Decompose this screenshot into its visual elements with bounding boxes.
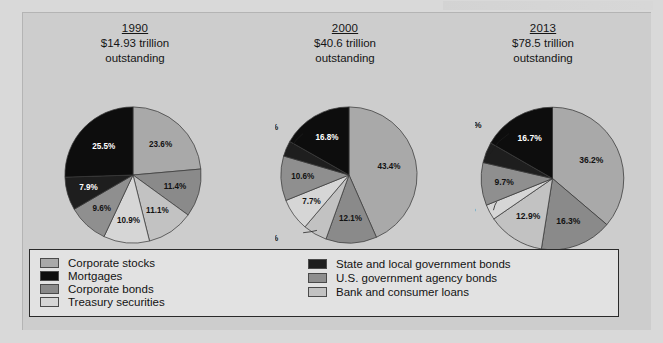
legend-label: Corporate stocks	[68, 257, 155, 269]
pie-slice-value-label-callout: 3.5%	[475, 204, 476, 214]
legend-swatch-bank-and-consumer-loans	[308, 287, 327, 297]
pie-slice-value-label: 9.7%	[494, 177, 514, 187]
chart-year-label: 2013	[443, 21, 643, 36]
pie-chart-figure-panel: 1990 $14.93 trillion outstanding 2000 $4…	[22, 12, 651, 330]
pie-chart-2013-svg: 36.2%16.3%12.9%3.5%9.7%4.7%16.7%	[475, 101, 630, 256]
pie-slice-value-label: 10.9%	[117, 216, 141, 225]
chart-amount-label: $78.5 trillion	[443, 36, 643, 51]
chart-header-1990: 1990 $14.93 trillion outstanding	[35, 21, 235, 66]
legend-item-corporate-bonds: Corporate bonds	[40, 283, 308, 296]
pie-chart-2000: 43.4%12.1%5.7%7.7%10.6%3.7%16.8%	[275, 101, 423, 249]
pie-chart-1990-svg: 23.6%11.4%11.1%10.9%9.6%7.9%25.5%	[59, 101, 207, 249]
pie-slice-value-label: 16.8%	[316, 133, 340, 142]
legend-swatch-corporate-stocks	[40, 258, 59, 268]
legend-item-us-government-agency-bonds: U.S. government agency bonds	[308, 271, 608, 285]
pie-slice-value-label: 43.4%	[377, 162, 401, 171]
legend-column-left: Corporate stocksMortgagesCorporate bonds…	[40, 257, 308, 309]
pie-slice-value-label-callout: 4.7%	[475, 120, 482, 130]
legend-swatch-mortgages	[40, 271, 59, 281]
chart-header-2013: 2013 $78.5 trillion outstanding	[443, 21, 643, 66]
chart-amount-label: $14.93 trillion	[35, 36, 235, 51]
chart-outstanding-label: outstanding	[245, 51, 445, 66]
pie-slice-value-label: 9.6%	[92, 204, 111, 213]
legend-label: State and local government bonds	[336, 258, 511, 270]
pie-slice-value-label: 36.2%	[579, 155, 604, 165]
legend-item-state-local-government-bonds: State and local government bonds	[308, 257, 608, 271]
chart-header-2000: 2000 $40.6 trillion outstanding	[245, 21, 445, 66]
pie-slice-value-label: 25.5%	[92, 142, 116, 151]
legend-swatch-us-government-agency-bonds	[308, 273, 327, 283]
pie-slice-value-label-callout: 3.7%	[275, 123, 279, 132]
legend-swatch-state-local-government-bonds	[308, 259, 327, 269]
legend-label: U.S. government agency bonds	[336, 272, 497, 284]
chart-legend: Corporate stocksMortgagesCorporate bonds…	[29, 249, 619, 317]
scan-artifact	[443, 1, 653, 10]
chart-year-label: 2000	[245, 21, 445, 36]
chart-year-label: 1990	[35, 21, 235, 36]
pie-slice-value-label: 16.3%	[556, 216, 581, 226]
chart-outstanding-label: outstanding	[443, 51, 643, 66]
legend-swatch-corporate-bonds	[40, 284, 59, 294]
pie-slice-value-label: 23.6%	[149, 140, 173, 149]
legend-label: Corporate bonds	[68, 283, 154, 295]
legend-label: Mortgages	[68, 270, 122, 282]
legend-swatch-treasury-securities	[40, 297, 59, 307]
pie-slice-value-label: 16.7%	[518, 133, 543, 143]
pie-slice-value-label: 7.7%	[302, 197, 321, 206]
legend-item-treasury-securities: Treasury securities	[40, 296, 308, 309]
pie-slice-value-label: 11.4%	[164, 182, 187, 191]
pie-slice-value-label: 12.1%	[339, 214, 363, 223]
legend-column-right: State and local government bondsU.S. gov…	[308, 257, 608, 309]
legend-item-mortgages: Mortgages	[40, 270, 308, 283]
legend-label: Bank and consumer loans	[336, 286, 469, 298]
pie-slice-value-label: 7.9%	[79, 183, 98, 192]
legend-item-bank-and-consumer-loans: Bank and consumer loans	[308, 285, 608, 299]
chart-amount-label: $40.6 trillion	[245, 36, 445, 51]
pie-slice-value-label: 11.1%	[146, 206, 169, 215]
pie-slice-value-label-callout: 5.7%	[275, 234, 279, 243]
legend-label: Treasury securities	[68, 296, 165, 308]
legend-item-corporate-stocks: Corporate stocks	[40, 257, 308, 270]
pie-slice-value-label: 12.9%	[516, 211, 541, 221]
pie-chart-2000-svg: 43.4%12.1%5.7%7.7%10.6%3.7%16.8%	[275, 101, 423, 249]
pie-slice-value-label: 10.6%	[291, 172, 315, 181]
pie-chart-1990: 23.6%11.4%11.1%10.9%9.6%7.9%25.5%	[59, 101, 207, 249]
pie-chart-2013: 36.2%16.3%12.9%3.5%9.7%4.7%16.7%	[475, 101, 630, 256]
chart-outstanding-label: outstanding	[35, 51, 235, 66]
